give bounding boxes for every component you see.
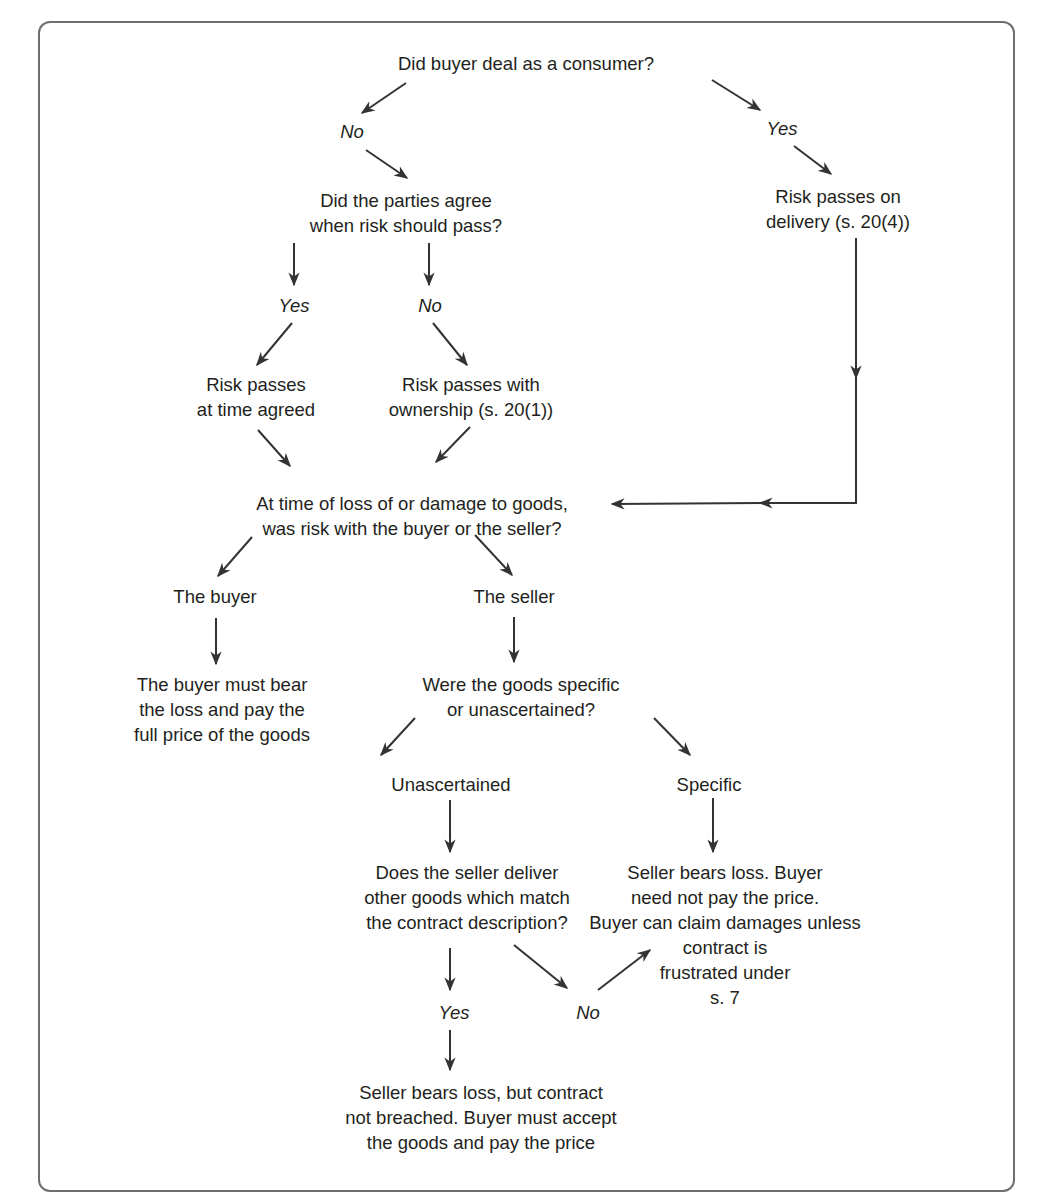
node-seller-deliver-other-goods: Does the seller deliver other goods whic… — [364, 860, 570, 935]
node-specific: Specific — [677, 772, 742, 797]
node-seller-bears-loss-specific: Seller bears loss. Buyer need not pay th… — [589, 860, 860, 1010]
label-no: No — [340, 119, 364, 144]
node-risk-passes-at-time-agreed: Risk passes at time agreed — [197, 372, 315, 422]
node-risk-with-buyer-or-seller: At time of loss of or damage to goods, w… — [256, 491, 568, 541]
node-goods-specific-or-unascertained: Were the goods specific or unascertained… — [422, 672, 619, 722]
node-did-parties-agree: Did the parties agree when risk should p… — [310, 188, 502, 238]
label-yes: Yes — [279, 293, 310, 318]
node-risk-passes-on-delivery: Risk passes on delivery (s. 20(4)) — [766, 184, 910, 234]
label-yes: Yes — [767, 116, 798, 141]
label-yes: Yes — [439, 1000, 470, 1025]
node-seller-bears-loss-not-breached: Seller bears loss, but contract not brea… — [345, 1080, 616, 1155]
node-did-buyer-deal-as-consumer: Did buyer deal as a consumer? — [398, 51, 654, 76]
label-no: No — [418, 293, 442, 318]
node-the-buyer: The buyer — [173, 584, 256, 609]
node-unascertained: Unascertained — [391, 772, 510, 797]
node-buyer-must-bear-loss: The buyer must bear the loss and pay the… — [134, 672, 310, 747]
node-the-seller: The seller — [473, 584, 554, 609]
label-no: No — [576, 1000, 600, 1025]
node-risk-passes-with-ownership: Risk passes with ownership (s. 20(1)) — [389, 372, 554, 422]
